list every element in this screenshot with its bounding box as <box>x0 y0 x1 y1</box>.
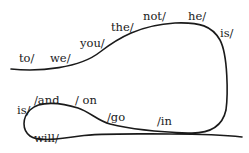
word-you: you/ <box>80 38 105 50</box>
word-and: /and <box>34 95 60 107</box>
word-he: he/ <box>188 11 206 23</box>
word-path-curve <box>11 23 242 140</box>
word-in: /in <box>157 116 172 128</box>
word-will: will/ <box>34 133 59 145</box>
word-is-top: is/ <box>220 28 233 40</box>
word-not: not/ <box>143 11 166 23</box>
word-to: to/ <box>19 53 34 65</box>
word-is-bottom: is/ <box>17 105 30 117</box>
word-the: the/ <box>111 22 134 34</box>
word-we: we/ <box>50 53 71 65</box>
word-on: / on <box>75 95 97 107</box>
word-go: /go <box>107 112 125 124</box>
